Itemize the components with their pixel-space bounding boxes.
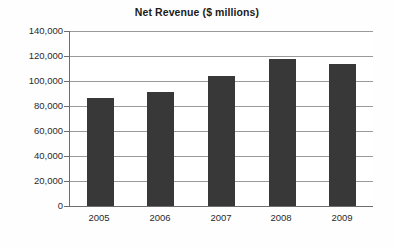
y-tick-label: 140,000 <box>0 25 63 36</box>
bar-2009 <box>329 64 356 206</box>
y-tick-label: 0 <box>0 200 63 211</box>
x-axis: 20052006200720082009 <box>69 212 372 232</box>
gridline <box>70 56 373 57</box>
y-tick-label: 120,000 <box>0 50 63 61</box>
y-tick-label: 40,000 <box>0 150 63 161</box>
gridline <box>70 31 373 32</box>
y-axis: 140,000120,000100,00080,00060,00040,0002… <box>0 0 63 247</box>
x-tick-label: 2009 <box>312 212 372 223</box>
bar-2005 <box>87 98 114 206</box>
y-tick-label: 80,000 <box>0 100 63 111</box>
y-tick-label: 20,000 <box>0 175 63 186</box>
plot-area <box>69 31 373 207</box>
x-tick-label: 2008 <box>251 212 311 223</box>
x-tick-label: 2007 <box>191 212 251 223</box>
x-tick-label: 2006 <box>130 212 190 223</box>
y-tick-label: 100,000 <box>0 75 63 86</box>
bar-2006 <box>147 92 174 206</box>
y-tick-label: 60,000 <box>0 125 63 136</box>
bar-2008 <box>269 59 296 206</box>
bar-chart: Net Revenue ($ millions) 140,000120,0001… <box>0 0 394 247</box>
x-tick-label: 2005 <box>69 212 129 223</box>
bar-2007 <box>208 76 235 206</box>
